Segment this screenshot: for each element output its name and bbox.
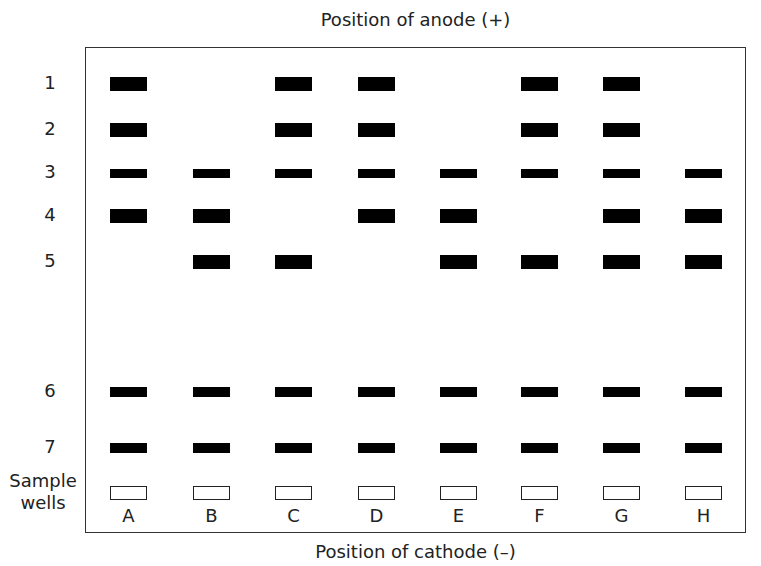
sample-well-C [275, 486, 312, 500]
band-C-5 [275, 255, 312, 269]
lane-label-B: B [193, 505, 230, 526]
band-B-5 [193, 255, 230, 269]
band-A-6 [110, 387, 147, 397]
lane-label-G: G [603, 505, 640, 526]
band-H-3 [685, 169, 722, 178]
band-A-4 [110, 209, 147, 223]
band-B-3 [193, 169, 230, 178]
band-C-6 [275, 387, 312, 397]
band-G-1 [603, 77, 640, 91]
band-F-1 [521, 77, 558, 91]
band-E-7 [440, 443, 477, 453]
band-D-6 [358, 387, 395, 397]
sample-well-D [358, 486, 395, 500]
sample-wells-label-line2: wells [8, 492, 78, 514]
band-E-4 [440, 209, 477, 223]
lane-label-D: D [358, 505, 395, 526]
band-C-2 [275, 123, 312, 137]
band-H-6 [685, 387, 722, 397]
band-B-7 [193, 443, 230, 453]
lane-label-A: A [110, 505, 147, 526]
band-D-3 [358, 169, 395, 178]
band-A-3 [110, 169, 147, 178]
band-C-3 [275, 169, 312, 178]
sample-well-F [521, 486, 558, 500]
band-E-6 [440, 387, 477, 397]
band-F-6 [521, 387, 558, 397]
anode-label: Position of anode (+) [35, 9, 761, 30]
row-label-2: 2 [38, 118, 62, 139]
gel-box [85, 47, 746, 533]
row-label-7: 7 [38, 436, 62, 457]
row-label-4: 4 [38, 204, 62, 225]
band-A-7 [110, 443, 147, 453]
band-F-7 [521, 443, 558, 453]
band-G-3 [603, 169, 640, 178]
band-D-1 [358, 77, 395, 91]
row-label-1: 1 [38, 72, 62, 93]
sample-wells-label-line1: Sample [8, 470, 78, 492]
cathode-label: Position of cathode (–) [35, 541, 761, 562]
band-B-4 [193, 209, 230, 223]
band-C-1 [275, 77, 312, 91]
band-G-6 [603, 387, 640, 397]
band-E-5 [440, 255, 477, 269]
band-A-2 [110, 123, 147, 137]
sample-well-H [685, 486, 722, 500]
lane-label-C: C [275, 505, 312, 526]
lane-label-E: E [440, 505, 477, 526]
band-G-5 [603, 255, 640, 269]
band-G-2 [603, 123, 640, 137]
sample-wells-label: Sample wells [8, 470, 78, 514]
band-H-5 [685, 255, 722, 269]
band-D-7 [358, 443, 395, 453]
band-G-4 [603, 209, 640, 223]
band-A-1 [110, 77, 147, 91]
band-F-3 [521, 169, 558, 178]
band-H-4 [685, 209, 722, 223]
sample-well-G [603, 486, 640, 500]
band-B-6 [193, 387, 230, 397]
band-H-7 [685, 443, 722, 453]
band-D-4 [358, 209, 395, 223]
row-label-5: 5 [38, 250, 62, 271]
lane-label-H: H [685, 505, 722, 526]
band-F-2 [521, 123, 558, 137]
sample-well-A [110, 486, 147, 500]
row-label-6: 6 [38, 380, 62, 401]
band-G-7 [603, 443, 640, 453]
band-F-5 [521, 255, 558, 269]
sample-well-B [193, 486, 230, 500]
band-D-2 [358, 123, 395, 137]
sample-well-E [440, 486, 477, 500]
lane-label-F: F [521, 505, 558, 526]
band-C-7 [275, 443, 312, 453]
band-E-3 [440, 169, 477, 178]
row-label-3: 3 [38, 161, 62, 182]
